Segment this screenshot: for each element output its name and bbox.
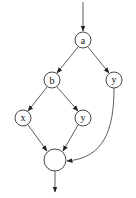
node-b: b (44, 72, 60, 88)
node-x-label: x (21, 112, 26, 123)
edge-x-join (28, 125, 47, 151)
edge-y1-join (67, 88, 114, 161)
node-a: a (75, 32, 91, 48)
node-y-middle-label: y (81, 112, 86, 123)
graph-diagram: a b y x y (0, 0, 136, 198)
node-x: x (15, 110, 31, 126)
node-a-label: a (81, 35, 86, 46)
edge-y2-join (63, 125, 78, 151)
edge-b-y2 (57, 87, 78, 111)
node-y-right-label: y (112, 74, 117, 85)
edge-a-b (57, 47, 78, 73)
node-join (44, 149, 66, 171)
edge-a-y1 (88, 47, 109, 73)
node-y-middle: y (75, 110, 91, 126)
edge-b-x (28, 87, 47, 111)
node-y-right: y (106, 72, 122, 88)
node-b-label: b (50, 75, 55, 86)
